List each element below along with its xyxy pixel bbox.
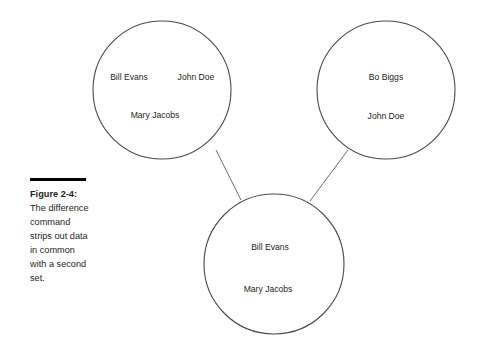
set-circle-top-left: [93, 21, 231, 159]
caption-description: The difference command strips out data i…: [30, 201, 92, 285]
figure-page: Bill EvansJohn DoeMary JacobsBo BiggsJoh…: [0, 0, 480, 351]
caption-text: Figure 2-4: The difference command strip…: [30, 187, 92, 285]
set-difference-diagram: Bill EvansJohn DoeMary JacobsBo BiggsJoh…: [0, 0, 480, 351]
set-circle-bottom-result: [204, 194, 344, 334]
connector-line-right-to-result: [310, 150, 348, 201]
caption-figure-number: Figure 2-4:: [30, 187, 92, 201]
member-label-top-left-1: John Doe: [178, 72, 215, 82]
member-label-top-right-0: Bo Biggs: [369, 72, 403, 82]
member-label-top-left-0: Bill Evans: [110, 72, 148, 82]
member-label-bottom-result-0: Bill Evans: [251, 242, 289, 252]
member-label-top-left-2: Mary Jacobs: [131, 110, 180, 120]
member-label-bottom-result-1: Mary Jacobs: [244, 284, 293, 294]
caption-rule-line: [30, 178, 86, 181]
connector-lines: [216, 150, 348, 201]
set-member-labels: Bill EvansJohn DoeMary JacobsBo BiggsJoh…: [110, 72, 404, 294]
connector-line-left-to-result: [216, 150, 241, 200]
member-label-top-right-1: John Doe: [368, 111, 405, 121]
set-circle-top-right: [317, 21, 455, 159]
figure-caption: Figure 2-4: The difference command strip…: [30, 178, 92, 285]
